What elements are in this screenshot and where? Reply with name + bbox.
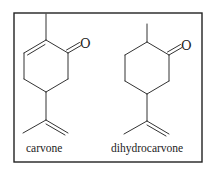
carbonyl-bond-2 — [67, 43, 80, 51]
ring-bond-c5-c6 — [147, 81, 169, 94]
dihydrocarvone-structure: O dihydrocarvone — [111, 24, 192, 155]
ring-bond-c2-c3 — [125, 42, 147, 55]
figure-frame — [14, 13, 202, 162]
ring-bond-c1-c2 — [46, 40, 68, 53]
oxygen-label: O — [80, 36, 91, 51]
dihydrocarvone-caption: dihydrocarvone — [111, 142, 183, 155]
ring-bond-c1-c2 — [147, 42, 169, 55]
carbonyl-bond-2 — [168, 45, 181, 53]
ring-bond-c4-c5 — [24, 79, 46, 92]
ring-bond-c4-c5 — [125, 81, 147, 94]
ring-bond-c5-c6 — [46, 79, 68, 92]
oxygen-label: O — [181, 38, 192, 53]
isopropenyl-methyl-bond — [124, 121, 147, 134]
isopropenyl-double-bond-1 — [147, 121, 169, 134]
carvone-structure: O carvone — [23, 14, 91, 154]
isopropenyl-methyl-bond — [23, 120, 46, 133]
isopropenyl-double-bond-1 — [46, 120, 68, 133]
carvone-caption: carvone — [26, 142, 62, 154]
structure-figure: O carvone O dihydrocarvone — [0, 0, 210, 169]
